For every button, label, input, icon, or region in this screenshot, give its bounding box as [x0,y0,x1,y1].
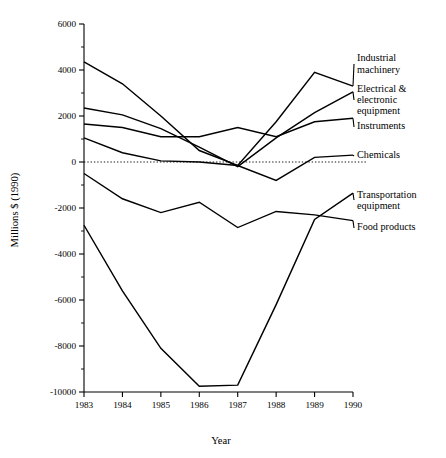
x-tick-label: 1984 [113,400,132,410]
x-tick-label: 1988 [267,400,286,410]
y-tick-label: -8000 [55,341,77,351]
y-tick-label: 4000 [58,65,77,75]
leader-line-chemicals [353,155,354,156]
y-tick-label: -6000 [55,295,77,305]
x-tick-label: 1986 [190,400,209,410]
legend-label-transportation-line2: equipment [357,200,400,211]
legend-label-food-products: Food products [357,221,416,232]
x-tick-label: 1989 [305,400,324,410]
y-tick-label: -4000 [55,249,77,259]
x-axis-title: Year [211,435,231,446]
chart-container: 6000400020000-2000-4000-6000-8000-10000 … [0,0,446,458]
legend-label-electrical-line1: Electrical & [357,83,407,94]
x-tick-label: 1983 [75,400,94,410]
x-tick-label: 1990 [344,400,363,410]
legend-label-electrical-line2: electronic [357,94,398,105]
y-tick-label: 6000 [58,19,77,29]
x-tick-label: 1987 [229,400,248,410]
legend-label-industrial-machinery-line1: Industrial [357,52,396,63]
y-tick-label: -10000 [50,387,76,397]
y-tick-label: 0 [71,157,76,167]
legend-label-chemicals: Chemicals [357,149,400,160]
legend-label-transportation-line1: Transportation [357,189,417,200]
legend-label-instruments: Instruments [357,120,405,131]
line-chart: 6000400020000-2000-4000-6000-8000-10000 … [0,0,446,458]
y-tick-label: -2000 [55,203,77,213]
legend-label-electrical-line3: equipment [357,105,400,116]
x-tick-label: 1985 [152,400,171,410]
legend-label-industrial-machinery-line2: machinery [357,64,401,75]
y-tick-label: 2000 [58,111,77,121]
y-axis-title: Millions $ (1990) [9,172,21,247]
